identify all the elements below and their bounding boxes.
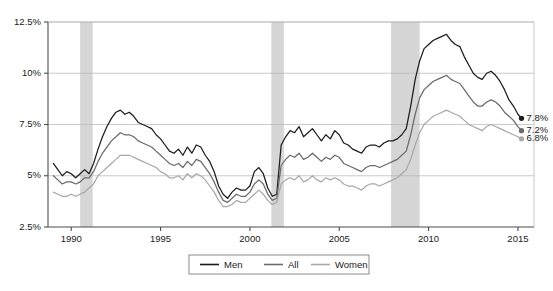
- data-series-group: [53, 34, 521, 206]
- y-axis-label-7.5: 7.5%: [19, 118, 41, 129]
- end-marker-all: [519, 128, 524, 133]
- chart-container: 2.5%5%7.5%10%12.5% 199019952000200520102…: [0, 0, 553, 291]
- x-axis-label-1995: 1995: [150, 233, 171, 244]
- series-line-men: [53, 34, 521, 198]
- x-axis-label-2010: 2010: [418, 233, 439, 244]
- unemployment-rate-line-chart: 2.5%5%7.5%10%12.5% 199019952000200520102…: [0, 0, 553, 291]
- x-axis-tick-labels: 199019952000200520102015: [61, 233, 529, 244]
- legend-label-all[interactable]: All: [288, 259, 299, 270]
- legend-label-men[interactable]: Men: [224, 259, 242, 270]
- x-tick-marks-group: [71, 227, 518, 231]
- legend-label-women[interactable]: Women: [335, 259, 368, 270]
- x-axis-label-2015: 2015: [507, 233, 528, 244]
- gridlines-group: [48, 22, 534, 176]
- y-axis-label-10: 10%: [22, 67, 42, 78]
- series-line-all: [53, 75, 521, 202]
- y-axis-label-2.5: 2.5%: [19, 221, 41, 232]
- end-point-labels-group: 7.8%7.2%6.8%: [526, 112, 548, 144]
- y-axis-label-12.5: 12.5%: [14, 16, 41, 27]
- x-axis-label-2000: 2000: [239, 233, 260, 244]
- y-axis-tick-labels: 2.5%5%7.5%10%12.5%: [14, 16, 48, 232]
- end-marker-men: [519, 116, 524, 121]
- end-label-men: 7.8%: [526, 112, 548, 123]
- chart-legend: MenAllWomen: [189, 255, 369, 274]
- end-marker-women: [519, 136, 524, 141]
- y-axis-label-5: 5%: [27, 169, 41, 180]
- end-label-women: 6.8%: [526, 132, 548, 143]
- x-axis-label-1990: 1990: [61, 233, 82, 244]
- x-axis-label-2005: 2005: [329, 233, 350, 244]
